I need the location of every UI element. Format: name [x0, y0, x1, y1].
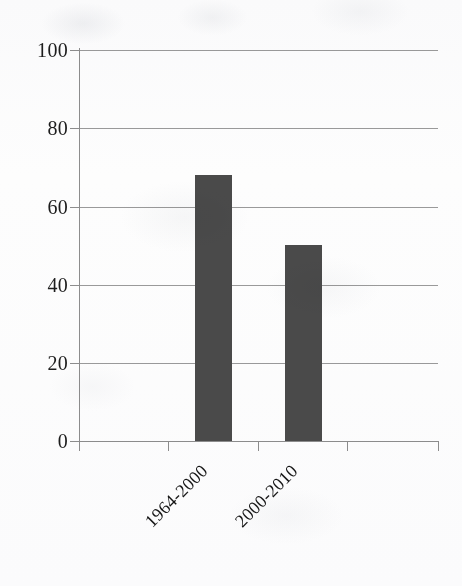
y-axis-label-80: 80	[12, 118, 68, 138]
plot-area	[79, 50, 438, 441]
y-tick-mark-20	[70, 363, 80, 364]
gridline-20	[79, 363, 438, 364]
x-tick-mark-4	[347, 441, 348, 451]
y-tick-mark-60	[70, 207, 80, 208]
y-axis-label-0: 0	[12, 431, 68, 451]
y-axis-line	[79, 48, 80, 443]
bar-2000-2010[interactable]	[285, 245, 322, 441]
gridline-80	[79, 128, 438, 129]
gridline-100	[79, 50, 438, 51]
x-axis-line	[79, 441, 439, 442]
x-tick-mark-3	[258, 441, 259, 451]
y-axis-labels: 100 80 60 40 20 0	[6, 0, 68, 586]
x-tick-mark-2	[168, 441, 169, 451]
y-axis-label-40: 40	[12, 275, 68, 295]
x-axis-label-2000-2010: 2000-2010	[231, 461, 302, 532]
gridline-60	[79, 207, 438, 208]
y-tick-mark-100	[70, 50, 80, 51]
x-tick-mark-5	[438, 441, 439, 451]
y-axis-label-60: 60	[12, 197, 68, 217]
bar-chart-figure: 100 80 60 40 20 0 1964-2000 2000-2010	[0, 0, 462, 586]
x-axis-label-1964-2000: 1964-2000	[141, 461, 212, 532]
x-tick-mark-1	[79, 441, 80, 451]
y-tick-mark-40	[70, 285, 80, 286]
gridline-40	[79, 285, 438, 286]
bar-1964-2000[interactable]	[195, 175, 232, 441]
y-axis-label-100: 100	[12, 40, 68, 60]
y-tick-mark-80	[70, 128, 80, 129]
y-axis-label-20: 20	[12, 353, 68, 373]
